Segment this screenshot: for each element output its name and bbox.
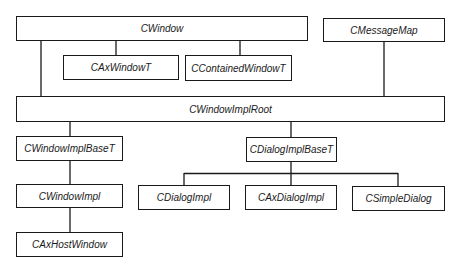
class-box-cmessagemap: CMessageMap [323,18,445,42]
class-box-cdialogimpl: CDialogImpl [138,185,230,210]
class-hierarchy-diagram: CWindow CMessageMap CAxWindowT CContaine… [0,0,461,268]
class-box-caxwindowt: CAxWindowT [63,55,179,80]
class-box-cwindow: CWindow [16,16,308,41]
class-label: CDialogImpl [157,192,211,203]
class-label: CContainedWindowT [191,63,285,74]
class-label: CMessageMap [350,25,417,36]
class-box-cdialogimplbaset: CDialogImplBaseT [246,137,337,162]
class-box-cwindowimplroot: CWindowImplRoot [16,96,445,122]
class-box-caxhostwindow: CAxHostWindow [16,232,123,257]
class-label: CWindowImpl [39,191,101,202]
class-box-cwindowimpl: CWindowImpl [16,184,123,208]
class-label: CSimpleDialog [365,193,431,204]
class-box-cwindowimplbaset: CWindowImplBaseT [16,136,123,161]
class-label: CWindowImplBaseT [24,143,115,154]
class-label: CWindowImplRoot [189,104,272,115]
class-label: CWindow [141,23,184,34]
class-label: CAxWindowT [91,62,151,73]
class-box-ccontainedwindowt: CContainedWindowT [185,55,292,81]
class-label: CDialogImplBaseT [250,144,333,155]
class-label: CAxDialogImpl [258,192,324,203]
class-box-caxdialogimpl: CAxDialogImpl [245,185,337,210]
class-box-csimpledialog: CSimpleDialog [352,186,445,211]
class-label: CAxHostWindow [32,239,107,250]
